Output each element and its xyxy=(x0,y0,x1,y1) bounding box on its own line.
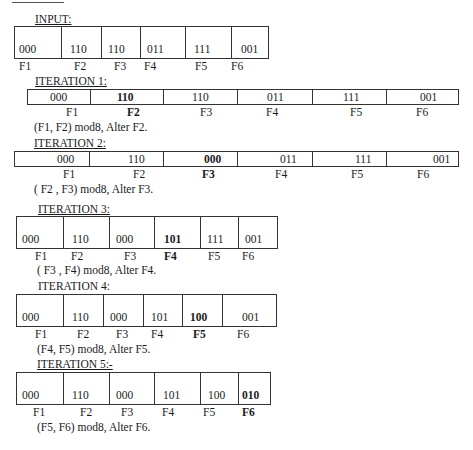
field-label: F5 xyxy=(350,106,362,119)
iter5-cell-f2: 110 xyxy=(63,373,109,404)
iter2-cell-f1: 000 xyxy=(15,152,89,166)
cell-value: 001 xyxy=(241,43,258,56)
field-label-highlight: F5 xyxy=(193,328,206,341)
cell-value-highlight: 100 xyxy=(190,311,207,324)
field-label: F1 xyxy=(66,106,78,119)
iteration-3-note: ( F3 , F4) mod8, Alter F4. xyxy=(37,264,156,277)
iter1-cell-f4: 011 xyxy=(237,90,312,104)
iter2-cell-f6: 001 xyxy=(386,152,460,166)
iteration-5-table: 000 110 000 101 100 010 xyxy=(16,372,271,405)
iter4-cell-f5: 100 xyxy=(182,295,222,326)
iteration-2-heading: ITERATION 2: xyxy=(34,137,106,150)
field-label: F1 xyxy=(33,406,45,419)
iteration-1-heading: ITERATION 1: xyxy=(35,75,107,88)
iteration-5-note: (F5, F6) mod8, Alter F6. xyxy=(37,421,150,434)
cell-value: 000 xyxy=(22,389,39,402)
field-label: F3 xyxy=(121,406,133,419)
iter4-cell-f2: 110 xyxy=(63,295,103,326)
cell-value: 101 xyxy=(151,311,168,324)
cell-value: 110 xyxy=(72,389,89,402)
field-label: F2 xyxy=(77,328,89,341)
iter5-cell-f4: 101 xyxy=(154,373,200,404)
cell-value: 101 xyxy=(163,389,180,402)
field-label-highlight: F4 xyxy=(164,250,177,263)
cell-value: 110 xyxy=(192,91,209,104)
cell-value: 000 xyxy=(110,311,127,324)
field-label: F6 xyxy=(242,250,254,263)
iter4-cell-f4: 101 xyxy=(143,295,182,326)
cell-value: 110 xyxy=(70,43,87,56)
field-label: F4 xyxy=(151,328,163,341)
input-cell-f2: 110 xyxy=(61,27,101,58)
field-label-highlight: F3 xyxy=(202,168,215,181)
input-cell-f4: 011 xyxy=(140,27,185,58)
cell-value-highlight: 010 xyxy=(242,389,259,402)
field-label: F1 xyxy=(35,250,47,263)
field-label: F4 xyxy=(266,106,278,119)
field-label: F1 xyxy=(19,60,31,73)
field-label: F2 xyxy=(71,250,83,263)
cell-value: 110 xyxy=(72,311,89,324)
field-label: F3 xyxy=(114,60,126,73)
cell-value: 110 xyxy=(108,43,125,56)
iteration-1-table: 000 110 110 011 111 001 xyxy=(27,89,459,105)
iteration-4-note: (F4, F5) mod8, Alter F5. xyxy=(37,343,150,356)
cell-value: 011 xyxy=(267,91,284,104)
iter3-cell-f2: 110 xyxy=(63,217,109,248)
cell-value: 000 xyxy=(116,233,133,246)
field-label: F2 xyxy=(80,406,92,419)
iteration-3-table: 000 110 000 101 111 001 xyxy=(16,216,278,249)
cell-value: 000 xyxy=(116,389,133,402)
cell-value: 110 xyxy=(72,233,89,246)
field-label: F6 xyxy=(417,168,429,181)
field-label: F6 xyxy=(237,328,249,341)
iter2-cell-f4: 011 xyxy=(237,152,312,166)
field-label: F5 xyxy=(195,60,207,73)
cell-value: 001 xyxy=(242,311,259,324)
iter5-cell-f1: 000 xyxy=(17,373,63,404)
input-cell-f5: 111 xyxy=(185,27,231,58)
input-cell-f1: 000 xyxy=(15,27,61,58)
iter3-cell-f3: 000 xyxy=(109,217,154,248)
cell-value: 100 xyxy=(208,389,225,402)
input-cell-f3: 110 xyxy=(101,27,140,58)
field-label: F4 xyxy=(162,406,174,419)
field-label: F1 xyxy=(63,168,75,181)
iter3-cell-f6: 001 xyxy=(238,217,279,248)
cell-value: 000 xyxy=(22,311,39,324)
cell-value-highlight: 000 xyxy=(204,153,221,166)
field-label: F2 xyxy=(133,168,145,181)
field-label: F5 xyxy=(203,406,215,419)
iter1-cell-f5: 111 xyxy=(312,90,386,104)
iteration-3-heading: ITERATION 3: xyxy=(38,203,110,216)
cell-value: 110 xyxy=(128,153,145,166)
iter5-cell-f3: 000 xyxy=(109,373,154,404)
field-label: F2 xyxy=(74,60,86,73)
cell-value: 000 xyxy=(50,91,67,104)
cropped-heading-underline xyxy=(12,2,64,3)
field-label: F5 xyxy=(208,250,220,263)
iter1-cell-f6: 001 xyxy=(386,90,460,104)
iter2-cell-f5: 111 xyxy=(312,152,386,166)
field-label: F4 xyxy=(144,60,156,73)
cell-value: 111 xyxy=(355,153,371,166)
iter2-cell-f2: 110 xyxy=(89,152,163,166)
iteration-4-table: 000 110 000 101 100 001 xyxy=(16,294,277,327)
iter4-cell-f1: 000 xyxy=(17,295,63,326)
field-label: F6 xyxy=(416,106,428,119)
iteration-2-table: 000 110 000 011 111 001 xyxy=(14,151,459,167)
cell-value-highlight: 110 xyxy=(117,91,134,104)
iter2-cell-f3: 000 xyxy=(163,152,237,166)
cell-value: 001 xyxy=(433,153,450,166)
input-cell-f6: 001 xyxy=(231,27,270,58)
iteration-4-heading: ITERATION 4: xyxy=(38,280,110,293)
iter3-cell-f5: 111 xyxy=(200,217,238,248)
field-label: F1 xyxy=(35,328,47,341)
input-heading: INPUT: xyxy=(35,13,71,26)
cell-value: 111 xyxy=(194,43,210,56)
iteration-1-note: (F1, F2) mod8, Alter F2. xyxy=(34,121,147,134)
cell-value: 111 xyxy=(207,233,223,246)
iter5-cell-f5: 100 xyxy=(200,373,238,404)
cell-value-highlight: 101 xyxy=(164,233,181,246)
iteration-5-heading: ITERATION 5:- xyxy=(37,358,113,371)
